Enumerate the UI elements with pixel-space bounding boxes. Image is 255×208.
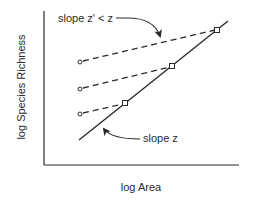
upper-arrow-icon	[116, 18, 160, 36]
square-marker	[170, 64, 175, 69]
y-axis-label: log Species Richness	[15, 34, 27, 140]
axes	[44, 11, 239, 165]
lower-arrow-icon	[104, 129, 140, 139]
island-line-1	[83, 104, 123, 113]
square-marker	[215, 28, 220, 33]
circle-marker	[78, 87, 82, 91]
x-axis-label: log Area	[121, 181, 162, 193]
circle-marker	[78, 112, 82, 116]
island-lines	[83, 30, 215, 113]
island-endpoints	[78, 60, 82, 116]
mainland-line-slope-z	[79, 21, 228, 140]
upper-slope-label: slope z' < z	[58, 12, 113, 24]
square-marker	[123, 101, 128, 106]
clipped-caption-text	[0, 200, 255, 208]
lower-slope-label: slope z	[143, 132, 178, 144]
island-line-3	[83, 30, 215, 61]
species-area-diagram: slope z' < z slope z log Area log Specie…	[0, 0, 255, 208]
circle-marker	[78, 60, 82, 64]
